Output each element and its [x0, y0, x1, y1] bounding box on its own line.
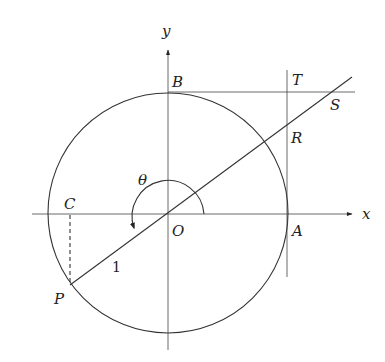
- segment-length-label: 1: [112, 259, 121, 275]
- unit-circle-diagram: y x B T S R θ C O A 1 P: [0, 0, 385, 362]
- point-b-label: B: [171, 73, 183, 91]
- y-axis-label: y: [161, 22, 171, 40]
- radius-line-op: [70, 77, 352, 285]
- point-c-label: C: [64, 195, 76, 213]
- point-p-label: P: [53, 290, 65, 308]
- x-axis-label: x: [362, 205, 371, 223]
- point-t-label: T: [292, 71, 303, 89]
- theta-label: θ: [138, 171, 147, 189]
- point-s-label: S: [330, 96, 340, 114]
- origin-label: O: [172, 222, 184, 240]
- point-r-label: R: [290, 129, 302, 147]
- point-a-label: A: [290, 222, 303, 240]
